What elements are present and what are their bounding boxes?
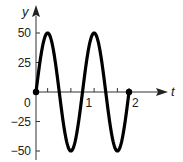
x-tick-label: 0 [24,96,31,110]
y-tick-label: 25 [18,56,32,70]
x-tick-label: 2 [132,96,139,110]
y-tick-label: −25 [11,115,32,129]
endpoint-dot [126,89,132,95]
y-tick-labels: 5025−25−50 [11,26,32,158]
y-axis-arrow-icon [32,5,40,17]
y-tick-label: −50 [11,144,32,158]
x-axis-label: t [171,84,176,99]
axes [32,5,168,160]
y-tick-label: 50 [18,26,32,40]
x-tick-label: 1 [86,96,93,110]
y-axis-label: y [21,4,30,19]
sine-chart: 012 5025−25−50 y t [0,0,183,162]
endpoint-dot [33,89,39,95]
